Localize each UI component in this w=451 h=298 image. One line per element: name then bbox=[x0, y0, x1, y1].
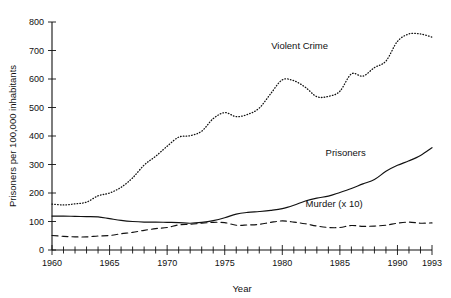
x-tick-label: 1960 bbox=[42, 258, 62, 268]
y-tick-label: 0 bbox=[39, 245, 44, 255]
x-tick-label: 1985 bbox=[330, 258, 350, 268]
y-axis-tick-labels: 0100200300400500600700800 bbox=[29, 17, 44, 255]
series-line-prisoners bbox=[52, 148, 432, 224]
x-tick-label: 1980 bbox=[272, 258, 292, 268]
series-label-violent-crime: Violent Crime bbox=[271, 40, 328, 51]
chart-container: 0100200300400500600700800 19601965197019… bbox=[0, 0, 451, 298]
y-tick-label: 600 bbox=[29, 74, 44, 84]
series-annotation-group: Violent CrimePrisonersMurder (x 10) bbox=[271, 40, 366, 209]
x-axis-title: Year bbox=[232, 283, 251, 294]
y-tick-label: 400 bbox=[29, 131, 44, 141]
crime-and-incarceration-line-chart: 0100200300400500600700800 19601965197019… bbox=[0, 0, 451, 298]
y-axis-title: Prisoners per 100,000 inhabitants bbox=[7, 65, 18, 207]
series-plot-group bbox=[52, 33, 432, 237]
y-axis: 0100200300400500600700800 bbox=[29, 17, 56, 255]
x-tick-label: 1990 bbox=[387, 258, 407, 268]
x-tick-label: 1970 bbox=[157, 258, 177, 268]
y-tick-label: 800 bbox=[29, 17, 44, 27]
series-label-murder-x-10: Murder (x 10) bbox=[306, 198, 363, 209]
x-tick-label: 1975 bbox=[215, 258, 235, 268]
x-axis-tick-labels: 19601965197019751980198519901993 bbox=[42, 258, 442, 268]
y-tick-label: 300 bbox=[29, 160, 44, 170]
x-tick-label: 1965 bbox=[100, 258, 120, 268]
y-tick-label: 500 bbox=[29, 103, 44, 113]
y-tick-label: 200 bbox=[29, 188, 44, 198]
series-line-murder-x-10 bbox=[52, 221, 432, 237]
y-tick-label: 100 bbox=[29, 217, 44, 227]
series-label-prisoners: Prisoners bbox=[326, 147, 366, 158]
x-tick-label: 1993 bbox=[422, 258, 442, 268]
x-axis: 19601965197019751980198519901993 bbox=[42, 245, 442, 268]
y-tick-label: 700 bbox=[29, 46, 44, 56]
